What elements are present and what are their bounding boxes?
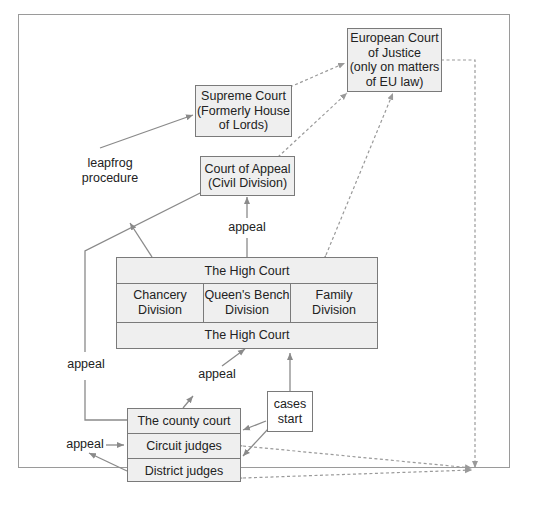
county-court-row: The county court [128,409,240,433]
supreme-line-1: Supreme Court [197,89,290,104]
leapfrog-arrow-upper [100,115,193,148]
supreme-court-box: Supreme Court (Formerly House of Lords) [195,85,292,137]
family-division-cell: Family Division [290,283,377,322]
appeal-label-left: appeal [64,357,108,372]
chancery-line-2: Division [133,303,187,318]
leapfrog-line-1: leapfrog [70,156,150,171]
supreme-line-2: (Formerly House [197,104,290,119]
supreme-line-3: of Lords) [197,118,290,133]
ecj-line-1: European Court [350,31,440,46]
high-court-divisions-row: Chancery Division Queen's Bench Division… [117,283,377,323]
queens-bench-line-1: Queen's Bench [204,288,289,303]
high-court-box: The High Court Chancery Division Queen's… [116,257,378,349]
county-loop-lower [85,380,127,420]
court-of-appeal-line-2: (Civil Division) [204,176,290,191]
high-court-top-row: The High Court [117,258,377,284]
high-court-bottom-row: The High Court [117,322,377,348]
appeal-label-mid: appeal [225,220,269,235]
cases-start-line-2: start [274,412,307,427]
ecj-line-3: (only on matters [350,60,440,75]
european-court-of-justice-box: European Court of Justice (only on matte… [347,28,442,92]
circuit-judges-row: Circuit judges [128,433,240,458]
family-line-2: Division [312,303,356,318]
ecj-line-2: of Justice [350,46,440,61]
court-of-appeal-box: Court of Appeal (Civil Division) [200,156,295,196]
family-line-1: Family [312,288,356,303]
district-judges-row: District judges [128,458,240,483]
leapfrog-line-2: procedure [70,171,150,186]
appeal-label-county: appeal [64,437,106,452]
queens-bench-division-cell: Queen's Bench Division [203,283,290,322]
court-of-appeal-line-1: Court of Appeal [204,162,290,177]
cases-start-box: cases start [267,391,313,432]
county-court-box: The county court Circuit judges District… [127,408,241,482]
leapfrog-arrow-lower [130,223,152,257]
cases-start-line-1: cases [274,397,307,412]
queens-bench-line-2: Division [204,303,289,318]
ecj-line-4: of EU law) [350,75,440,90]
chancery-division-cell: Chancery Division [117,283,203,322]
leapfrog-procedure-label: leapfrog procedure [70,156,150,185]
appeal-label-lower: appeal [195,367,239,382]
chancery-line-1: Chancery [133,288,187,303]
